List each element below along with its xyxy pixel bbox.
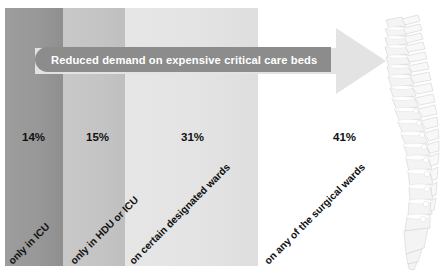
spine-illustration — [372, 10, 440, 272]
sacrum-coccyx — [404, 228, 428, 270]
value-label-3: 41% — [333, 131, 356, 143]
figure-gradient-band-chart: Reduced demand on expensive critical car… — [0, 0, 441, 279]
value-label-2: 31% — [181, 131, 204, 143]
vertebra-group-lumbar — [405, 155, 433, 231]
banner-label: Reduced demand on expensive critical car… — [35, 47, 331, 72]
value-label-0: 14% — [22, 131, 45, 143]
value-label-1: 15% — [86, 131, 109, 143]
